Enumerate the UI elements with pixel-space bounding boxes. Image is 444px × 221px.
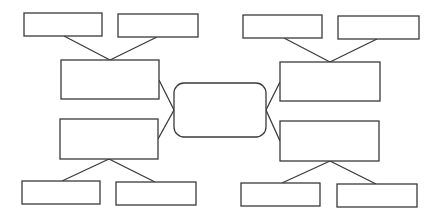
leaf-node-right-lower-2[interactable] [337, 184, 417, 207]
mind-map-diagram [0, 0, 444, 221]
leaf-node-left-upper-1[interactable] [24, 13, 102, 36]
connector-center-lu [159, 80, 174, 110]
connector-ru-2 [330, 39, 377, 62]
connector-center-ll [158, 110, 174, 139]
leaf-node-right-upper-2[interactable] [338, 16, 419, 39]
connector-lu-1 [64, 36, 110, 60]
branch-node-right-upper[interactable] [280, 62, 380, 101]
center-node[interactable] [174, 83, 266, 137]
connector-rl-2 [330, 161, 376, 184]
connector-lu-2 [110, 37, 157, 60]
leaf-node-left-lower-2[interactable] [116, 182, 196, 205]
leaf-node-right-upper-1[interactable] [243, 15, 322, 38]
connector-ll-1 [62, 159, 109, 181]
leaf-node-left-lower-1[interactable] [22, 181, 100, 204]
connector-ru-1 [284, 38, 330, 62]
connector-center-ru [266, 82, 280, 110]
leaf-node-right-lower-1[interactable] [241, 183, 320, 206]
connector-ll-2 [109, 159, 155, 182]
branch-node-right-lower[interactable] [280, 121, 379, 161]
connector-center-rl [266, 110, 280, 141]
connector-rl-1 [282, 161, 330, 183]
branch-node-left-upper[interactable] [61, 60, 159, 99]
branch-node-left-lower[interactable] [60, 119, 158, 159]
leaf-node-left-upper-2[interactable] [118, 14, 198, 37]
diagram-canvas [0, 0, 444, 221]
